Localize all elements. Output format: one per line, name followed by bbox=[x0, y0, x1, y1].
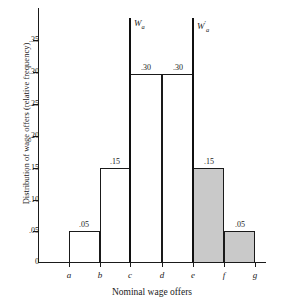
x-tick-label-c: c bbox=[122, 270, 138, 280]
bar-b-c bbox=[100, 168, 130, 262]
y-tick-label-0: 0 bbox=[11, 258, 39, 266]
x-tick-label-f: f bbox=[216, 270, 232, 280]
reservation-wage-line-revised bbox=[192, 18, 195, 262]
y-tick-mark-30 bbox=[33, 72, 39, 73]
y-tick-group-0: 0 bbox=[0, 258, 39, 266]
x-tick-mark-a bbox=[69, 262, 70, 267]
x-tick-mark-c bbox=[130, 262, 131, 267]
bar-label-f-g: .05 bbox=[225, 221, 255, 229]
bar-label-c-d: .30 bbox=[131, 64, 161, 72]
bar-c-d bbox=[130, 74, 162, 262]
x-tick-mark-g bbox=[255, 262, 256, 267]
reservation-wage-label-revised: W′a bbox=[197, 19, 209, 34]
bar-e-f bbox=[193, 168, 224, 262]
y-tick-mark-35 bbox=[33, 40, 39, 41]
y-tick-mark-20 bbox=[33, 136, 39, 137]
reservation-wage-line-initial bbox=[129, 18, 132, 262]
x-tick-label-e: e bbox=[185, 270, 201, 280]
x-tick-label-d: d bbox=[154, 270, 170, 280]
y-tick-group-15: .15 bbox=[0, 164, 39, 172]
y-tick-group-25: .25 bbox=[0, 100, 39, 108]
y-tick-mark-10 bbox=[33, 200, 39, 201]
histogram-figure: Distribution of wage offers (relative fr… bbox=[0, 0, 285, 302]
bar-label-b-c: .15 bbox=[100, 158, 130, 166]
y-tick-group-30: .30 bbox=[0, 68, 39, 76]
x-tick-label-g: g bbox=[247, 270, 263, 280]
reservation-wage-label-initial-base: W bbox=[134, 18, 142, 28]
x-axis-line bbox=[38, 262, 266, 263]
y-tick-mark-05 bbox=[33, 231, 39, 232]
bar-label-a-b: .05 bbox=[69, 221, 99, 229]
bar-f-g bbox=[224, 231, 255, 262]
reservation-wage-label-initial-sub: a bbox=[142, 23, 145, 30]
x-tick-mark-b bbox=[100, 262, 101, 267]
reservation-wage-label-initial: Wa bbox=[134, 19, 145, 31]
x-axis-title: Nominal wage offers bbox=[38, 287, 266, 298]
y-tick-group-20: .20 bbox=[0, 132, 39, 140]
reservation-wage-label-revised-sub: a bbox=[206, 26, 209, 33]
x-tick-label-b: b bbox=[92, 270, 108, 280]
y-tick-group-05: .05 bbox=[0, 227, 39, 235]
x-tick-mark-f bbox=[224, 262, 225, 267]
y-tick-group-10: .10 bbox=[0, 196, 39, 204]
x-tick-mark-d bbox=[162, 262, 163, 267]
y-tick-mark-15 bbox=[33, 168, 39, 169]
bar-label-e-f: .15 bbox=[194, 158, 224, 166]
x-tick-mark-e bbox=[193, 262, 194, 267]
bar-d-e bbox=[162, 74, 193, 262]
y-tick-group-35: .35 bbox=[0, 36, 39, 44]
bar-label-d-e: .30 bbox=[163, 64, 193, 72]
x-tick-label-a: a bbox=[61, 270, 77, 280]
reservation-wage-label-revised-base: W bbox=[197, 21, 205, 31]
bar-a-b bbox=[69, 231, 100, 262]
y-tick-mark-25 bbox=[33, 104, 39, 105]
